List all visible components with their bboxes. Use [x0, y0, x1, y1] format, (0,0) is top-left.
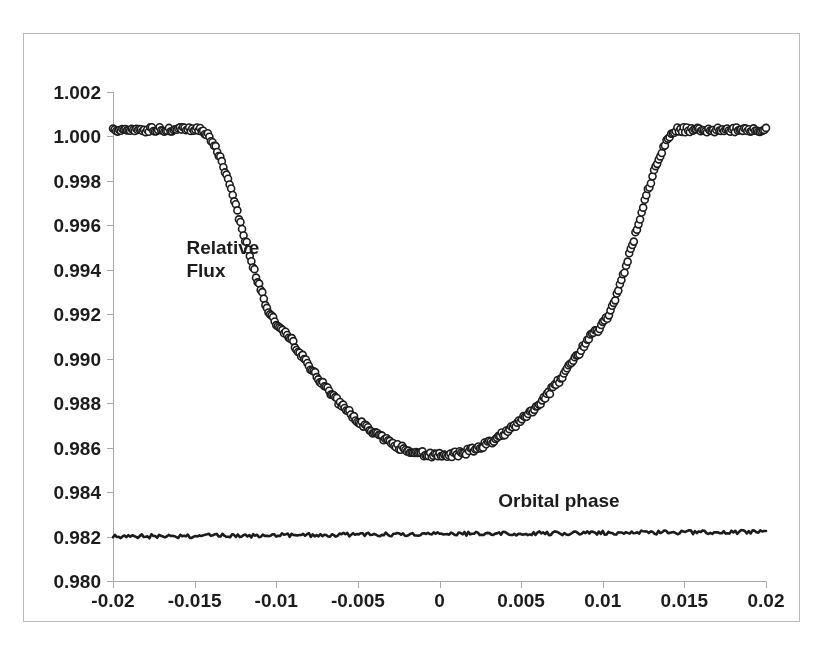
- x-axis-title-orbital-phase: Orbital phase: [498, 489, 619, 512]
- y-tick-label: 0.980: [53, 572, 101, 591]
- y-tick-label: 0.996: [53, 216, 101, 235]
- y-tick-label: 0.986: [53, 438, 101, 457]
- x-tick-label: -0.02: [91, 591, 134, 610]
- y-tick-label: 0.982: [53, 527, 101, 546]
- transit-light-curve-chart: [0, 0, 822, 646]
- x-tick-label: 0: [434, 591, 445, 610]
- y-tick-label: 0.984: [53, 483, 101, 502]
- y-tick-label: 0.992: [53, 305, 101, 324]
- x-tick-label: 0.02: [748, 591, 785, 610]
- y-axis-title-relative-flux: Relative Flux: [186, 236, 259, 282]
- x-tick-label: -0.01: [255, 591, 298, 610]
- x-tick-label: -0.015: [168, 591, 222, 610]
- x-tick-label: -0.005: [331, 591, 385, 610]
- x-tick-label: 0.005: [497, 591, 545, 610]
- y-tick-label: 0.990: [53, 349, 101, 368]
- x-tick-label: 0.015: [661, 591, 709, 610]
- y-tick-label: 1.000: [53, 127, 101, 146]
- y-tick-label: 0.988: [53, 394, 101, 413]
- x-tick-label: 0.01: [584, 591, 621, 610]
- y-tick-label: 1.002: [53, 83, 101, 102]
- y-tick-label: 0.994: [53, 260, 101, 279]
- y-tick-label: 0.998: [53, 171, 101, 190]
